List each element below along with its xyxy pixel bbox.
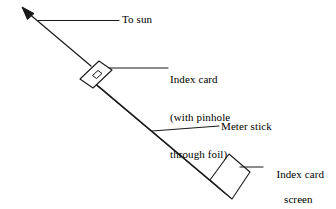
label-index-card-screen: Index card screen [265, 155, 324, 209]
pinhole-projection-diagram: To sun Index card (with pinhole through … [0, 0, 336, 209]
sun-ray-arrowhead [22, 7, 34, 20]
label-screen-line2: screen [265, 193, 324, 206]
label-index-card: Index card (with pinhole through foil) [170, 48, 230, 186]
pinhole-index-card [80, 61, 112, 88]
label-index-card-line3: through foil) [170, 148, 230, 161]
label-meter-stick: Meter stick [221, 120, 272, 133]
label-index-card-line1: Index card [170, 73, 230, 86]
sun-ray-arrow [22, 7, 91, 66]
label-to-sun: To sun [122, 13, 152, 26]
label-screen-line1: Index card [276, 168, 324, 180]
